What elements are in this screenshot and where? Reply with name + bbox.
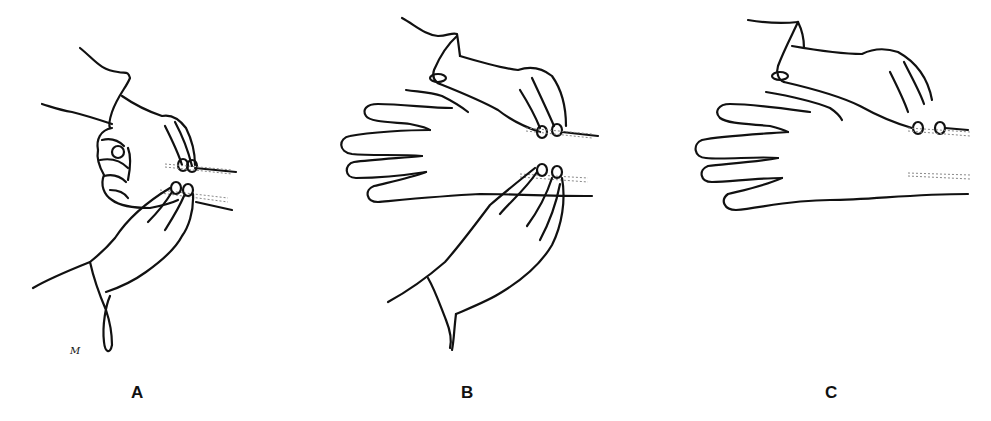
panel-a-label: A: [131, 383, 144, 403]
panel-b-illustration: [330, 0, 620, 380]
panel-a: [0, 0, 300, 380]
artist-signature: M: [70, 345, 80, 356]
panel-a-illustration: [0, 0, 300, 380]
panel-b: [330, 0, 620, 380]
panel-c-label: C: [825, 383, 838, 403]
panel-c: [680, 0, 980, 380]
panel-b-label: B: [461, 383, 474, 403]
panel-c-illustration: [680, 0, 980, 380]
